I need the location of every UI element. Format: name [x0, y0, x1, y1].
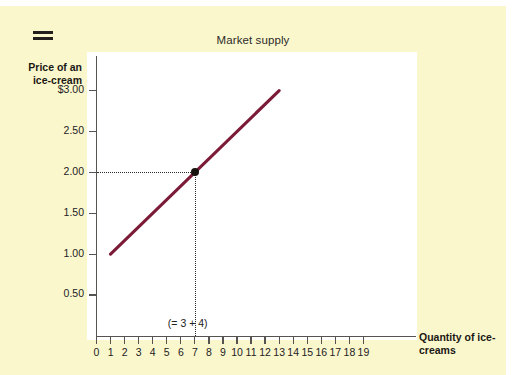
plot-area: 0.501.001.502.002.50$3.00 01234567891011…	[87, 52, 417, 340]
supply-line-svg	[87, 52, 417, 340]
y-tick-label: 2.50	[64, 124, 84, 136]
x-tick-label: 19	[355, 346, 371, 358]
y-tick-label: 0.50	[64, 287, 84, 299]
y-tick-label: 1.50	[64, 206, 84, 218]
x-axis-title: Quantity of ice-creams	[419, 331, 503, 357]
y-tick-label: $3.00	[58, 83, 84, 95]
page-title: Market supply	[0, 34, 506, 46]
sum-annotation: (= 3 + 4)	[168, 317, 208, 329]
y-tick-label: 1.00	[64, 247, 84, 259]
y-tick-label: 2.00	[64, 165, 84, 177]
chart-page: Market supply Price of an ice-cream Quan…	[0, 6, 506, 375]
